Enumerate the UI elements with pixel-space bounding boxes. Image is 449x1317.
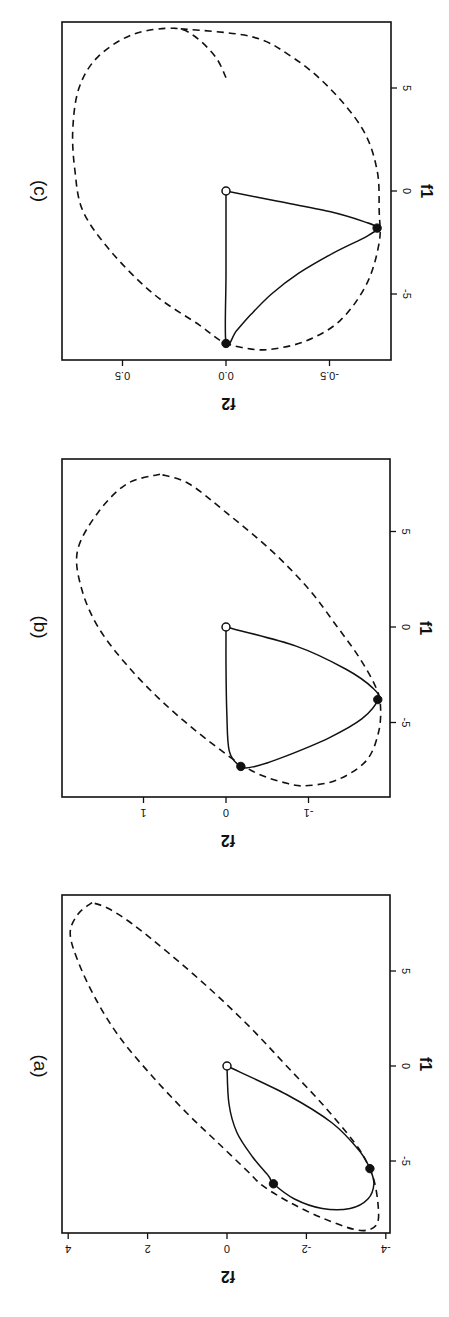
f1-axis-label: f1 [417,621,434,635]
f2-axis-label: f2 [221,1268,235,1285]
panel-a: -505f1-4-2024f2(a) [30,895,434,1285]
f2-axis-label: f2 [221,395,235,412]
panel-c: -505f1-0.50.00.5f2(c) [30,22,435,412]
f2-tick-label: -0.5 [320,370,339,382]
f1-tick-label: -5 [400,718,412,728]
origin-open-marker [222,187,230,195]
f2-tick-label: 0.5 [115,370,130,382]
f2-tick-label: -2 [302,1243,312,1255]
solid-path-curve [226,627,379,768]
panel-label: (b) [30,615,51,638]
f2-tick-label: 2 [145,1243,151,1255]
solid-path-curve [227,1066,374,1210]
filled-marker [237,762,245,770]
f2-tick-label: 0.0 [218,370,233,382]
filled-marker [366,1164,374,1172]
solid-path-curve [225,191,377,346]
f2-tick-label: 0 [224,1243,230,1255]
filled-marker [222,339,230,347]
f2-tick-label: 4 [65,1243,71,1255]
figure-canvas: -505f1-0.50.00.5f2(c) -505f1-101f2(b) -5… [0,0,449,1317]
origin-open-marker [222,623,230,631]
f1-axis-label: f1 [418,184,435,198]
f2-tick-label: -1 [304,807,314,819]
f1-tick-label: 0 [400,624,412,630]
f1-tick-label: 5 [400,528,412,534]
f2-tick-label: -4 [381,1243,391,1255]
f1-tick-label: 5 [401,85,413,91]
f1-tick-label: 0 [400,1063,412,1069]
f2-tick-label: 1 [140,807,146,819]
f2-tick-label: 0 [223,807,229,819]
f1-axis-label: f1 [417,1057,434,1071]
filled-marker [269,1180,277,1188]
f1-tick-label: 5 [400,968,412,974]
panel-label: (a) [30,1054,51,1077]
f1-tick-label: -5 [401,289,413,299]
f2-axis-label: f2 [221,832,235,849]
f1-tick-label: -5 [400,1156,412,1166]
origin-open-marker [223,1062,231,1070]
filled-marker [373,224,381,232]
filled-marker [374,695,382,703]
panel-label: (c) [30,180,51,202]
panel-b: -505f1-101f2(b) [30,459,434,849]
f1-tick-label: 0 [401,188,413,194]
